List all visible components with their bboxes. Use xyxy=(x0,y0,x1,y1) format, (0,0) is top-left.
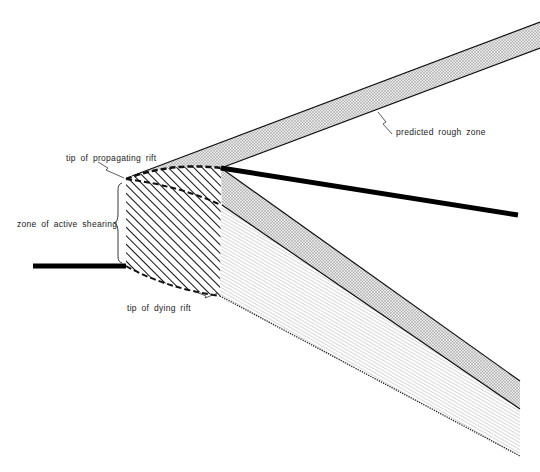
label-tip-dying-rift: tip of dying rift xyxy=(127,303,191,313)
label-tip-propagating-rift: tip of propagating rift xyxy=(66,153,157,163)
active-shear-zone-hatched xyxy=(126,166,221,296)
label-predicted-rough-zone: predicted rough zone xyxy=(396,127,486,137)
leader-propagating xyxy=(98,162,124,178)
label-zone-active-shearing: zone of active shearing xyxy=(17,219,117,229)
leader-rough-zone xyxy=(378,112,392,134)
rift-diagram: predicted rough zone tip of propagating … xyxy=(0,0,540,472)
